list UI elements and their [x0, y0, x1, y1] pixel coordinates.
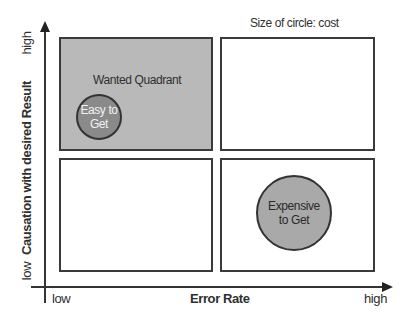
x-axis-low-label: low: [52, 291, 70, 306]
x-axis-high-label: high: [364, 291, 387, 306]
circle-expensive-line2: to Get: [268, 213, 320, 227]
circle-expensive-to-get: Expensive to Get: [256, 175, 332, 251]
quadrant-bottom-left: [59, 158, 213, 272]
circle-easy-line1: Easy to: [80, 103, 117, 117]
quadrant-top-right: [220, 37, 375, 151]
y-axis-high-label: high: [20, 28, 34, 58]
y-axis-low-label: low: [20, 256, 34, 286]
size-legend-note: Size of circle: cost: [250, 16, 339, 30]
circle-easy-line2: Get: [80, 117, 117, 131]
y-axis-title: Causation with desired Result: [19, 68, 35, 268]
circle-easy-to-get: Easy to Get: [76, 94, 122, 140]
x-axis-title: Error Rate: [190, 291, 250, 306]
y-axis-arrow-icon: [40, 21, 50, 32]
wanted-quadrant-label: Wanted Quadrant: [93, 73, 181, 87]
circle-expensive-line1: Expensive: [268, 199, 320, 213]
quadrant-top-left: Wanted Quadrant: [59, 37, 213, 151]
